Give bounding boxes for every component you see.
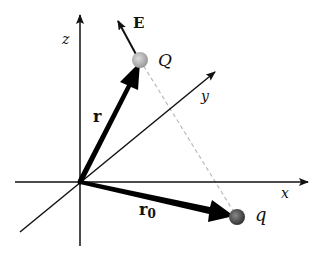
z-axis-label: z (62, 31, 69, 47)
r0-vector-label: r0 (139, 200, 156, 219)
origin-dot (78, 180, 83, 185)
separation-dashed-line (140, 60, 237, 217)
source-charge-q (229, 209, 245, 225)
source-charge-label-q: q (255, 204, 267, 225)
r-vector-label: r (93, 107, 101, 126)
field-point-label-Q: Q (158, 50, 172, 70)
x-axis-label: x (281, 185, 289, 201)
coordinate-diagram (0, 0, 327, 254)
r0-label-subscript: 0 (147, 207, 155, 221)
y-axis-label: y (201, 88, 209, 104)
field-point-charge-Q (132, 52, 148, 68)
e-field-label: E (133, 14, 144, 32)
r-vector (78, 62, 140, 184)
r0-vector (80, 180, 234, 222)
